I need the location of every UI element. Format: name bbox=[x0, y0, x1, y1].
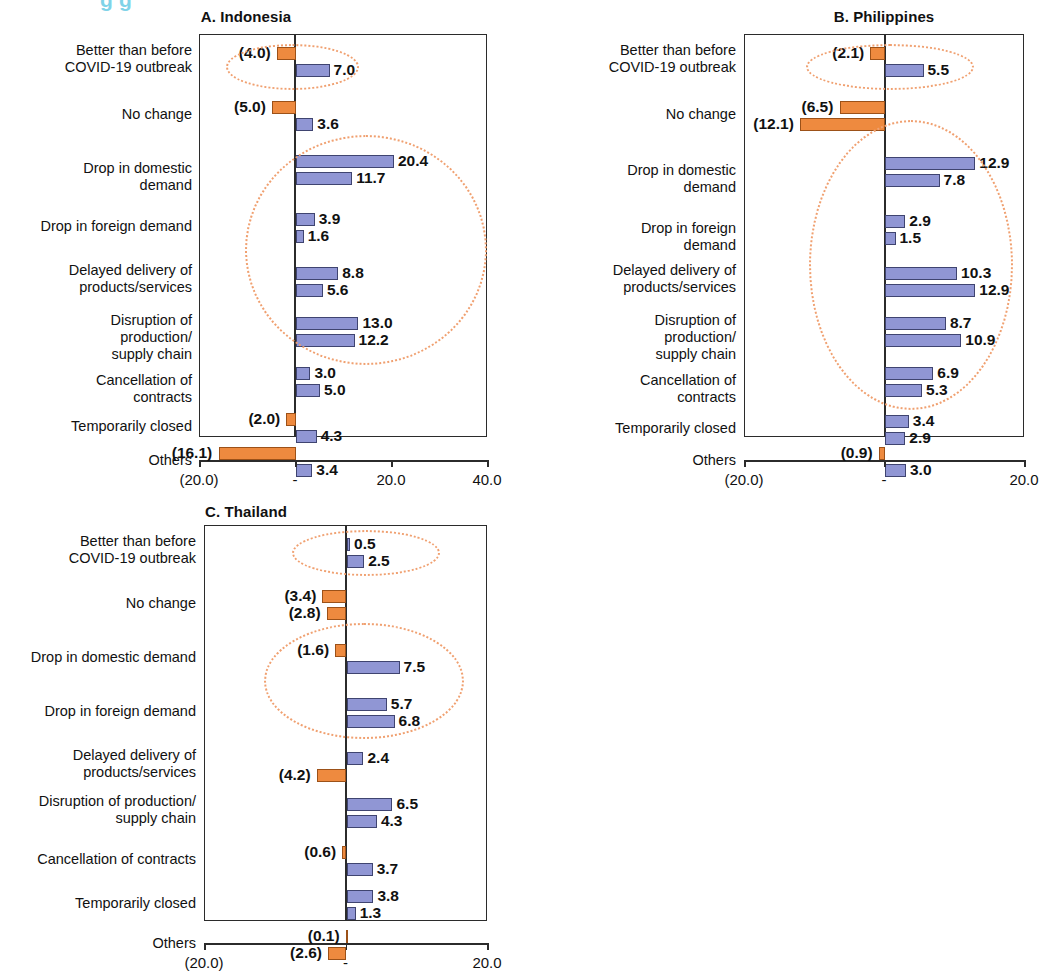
bar-value-label: 8.7 bbox=[950, 316, 972, 329]
bar-positive bbox=[347, 538, 351, 551]
bar-value-label: 8.8 bbox=[342, 266, 364, 279]
bar-positive bbox=[347, 752, 364, 765]
x-axis-tick-label: 40.0 bbox=[472, 471, 501, 488]
bar-value-label: 12.9 bbox=[979, 156, 1009, 169]
bar-value-label: 2.5 bbox=[368, 554, 390, 567]
plot-area-philippines bbox=[744, 34, 1024, 437]
x-axis-tick-label: - bbox=[343, 954, 348, 971]
bar-value-label: 5.7 bbox=[391, 697, 413, 710]
bar-negative bbox=[870, 47, 885, 60]
bar-negative bbox=[346, 930, 348, 943]
bar-positive bbox=[347, 715, 395, 728]
bar-value-label: 6.9 bbox=[937, 366, 959, 379]
bar-value-label: 1.6 bbox=[308, 229, 330, 242]
bar-value-label: (0.1) bbox=[308, 929, 340, 942]
x-axis-tick-label: - bbox=[293, 471, 298, 488]
x-axis-tick bbox=[487, 460, 489, 467]
bar-positive bbox=[885, 384, 922, 397]
category-label: Cancellation of contracts bbox=[20, 851, 196, 868]
x-axis-tick-label: 20.0 bbox=[1009, 471, 1038, 488]
bar-negative bbox=[327, 607, 347, 620]
x-axis-tick-label: (20.0) bbox=[184, 954, 223, 971]
category-label: Delayed delivery of products/services bbox=[40, 262, 192, 296]
panel-indonesia: A. Indonesia Better than before COVID-19… bbox=[0, 8, 510, 488]
bar-value-label: 7.0 bbox=[334, 63, 356, 76]
bar-value-label: 10.3 bbox=[961, 266, 991, 279]
bar-value-label: (12.1) bbox=[753, 117, 794, 130]
bar-value-label: (2.1) bbox=[832, 46, 864, 59]
bar-negative bbox=[317, 769, 347, 782]
bar-value-label: 7.5 bbox=[404, 660, 426, 673]
bar-negative bbox=[800, 118, 885, 131]
bar-positive bbox=[885, 232, 896, 245]
bar-value-label: (16.1) bbox=[172, 446, 213, 459]
x-axis-tick bbox=[744, 460, 746, 467]
bar-positive bbox=[885, 174, 940, 187]
bar-value-label: 5.0 bbox=[324, 383, 346, 396]
x-axis-tick bbox=[295, 460, 297, 467]
bar-positive bbox=[296, 118, 313, 131]
plot-area-thailand bbox=[204, 525, 487, 921]
bar-value-label: 2.4 bbox=[367, 751, 389, 764]
bar-value-label: 3.4 bbox=[913, 414, 935, 427]
bar-positive bbox=[347, 555, 365, 568]
bar-value-label: (1.6) bbox=[297, 643, 329, 656]
bar-negative bbox=[322, 590, 346, 603]
x-axis-tick bbox=[204, 943, 206, 950]
bar-value-label: 5.3 bbox=[926, 383, 948, 396]
category-label: Drop in domestic demand bbox=[590, 162, 736, 196]
bar-value-label: 4.3 bbox=[321, 429, 343, 442]
bar-value-label: (0.6) bbox=[304, 845, 336, 858]
category-label: No change bbox=[20, 595, 196, 612]
bar-value-label: 1.3 bbox=[360, 906, 382, 919]
bar-value-label: 6.5 bbox=[396, 797, 418, 810]
category-label: Cancellation of contracts bbox=[590, 372, 736, 406]
bar-value-label: 0.5 bbox=[354, 537, 376, 550]
bar-positive bbox=[885, 157, 975, 170]
bar-positive bbox=[347, 798, 393, 811]
panel-title-indonesia: A. Indonesia bbox=[0, 8, 492, 25]
bar-value-label: 4.3 bbox=[381, 814, 403, 827]
bar-value-label: 3.0 bbox=[910, 463, 932, 476]
bar-value-label: (2.0) bbox=[248, 412, 280, 425]
bar-positive bbox=[885, 334, 961, 347]
category-label: Temporarily closed bbox=[40, 418, 192, 435]
bar-value-label: (3.4) bbox=[284, 589, 316, 602]
bar-value-label: 3.7 bbox=[377, 862, 399, 875]
category-label: Drop in foreign demand bbox=[590, 220, 736, 254]
bar-value-label: (2.8) bbox=[289, 606, 321, 619]
category-label: Disruption of production/ supply chain bbox=[20, 793, 196, 827]
bar-positive bbox=[347, 863, 373, 876]
bar-value-label: 6.8 bbox=[399, 714, 421, 727]
x-axis-tick bbox=[199, 460, 201, 467]
bar-value-label: 7.8 bbox=[944, 173, 966, 186]
bar-value-label: 2.9 bbox=[909, 214, 931, 227]
bar-negative bbox=[219, 447, 296, 460]
bar-positive bbox=[347, 815, 377, 828]
figure-root: g g A. Indonesia Better than before COVI… bbox=[0, 0, 1041, 971]
bar-negative bbox=[335, 644, 346, 657]
category-label: Temporarily closed bbox=[590, 420, 736, 437]
x-axis-tick bbox=[391, 460, 393, 467]
bar-value-label: (4.0) bbox=[239, 46, 271, 59]
bar-value-label: 5.6 bbox=[327, 283, 349, 296]
category-label: No change bbox=[590, 106, 736, 123]
bar-value-label: 3.6 bbox=[317, 117, 339, 130]
bar-positive bbox=[347, 907, 356, 920]
bar-value-label: (2.6) bbox=[290, 946, 322, 959]
bar-positive bbox=[296, 267, 338, 280]
bar-value-label: (5.0) bbox=[234, 100, 266, 113]
bar-positive bbox=[885, 415, 909, 428]
bar-positive bbox=[885, 284, 975, 297]
category-label: Others bbox=[20, 935, 196, 952]
bar-value-label: 12.2 bbox=[359, 333, 389, 346]
bar-negative bbox=[840, 101, 886, 114]
bar-value-label: 5.5 bbox=[928, 63, 950, 76]
bar-negative bbox=[277, 47, 296, 60]
category-label: Drop in foreign demand bbox=[40, 218, 192, 235]
bar-positive bbox=[296, 464, 312, 477]
x-axis-tick-label: - bbox=[882, 471, 887, 488]
bar-positive bbox=[347, 698, 387, 711]
bar-positive bbox=[296, 317, 358, 330]
category-label: Cancellation of contracts bbox=[40, 372, 192, 406]
